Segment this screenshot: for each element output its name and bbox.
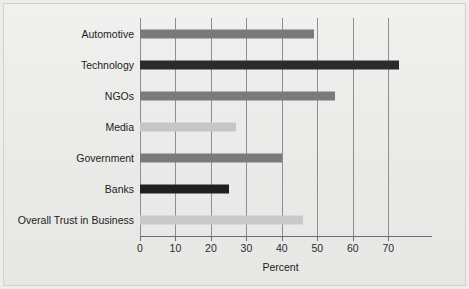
bar [140,91,335,100]
bar-row: Technology [140,49,406,80]
x-axis-tick-label: 60 [347,242,359,254]
y-axis-tick-label: Banks [105,183,134,195]
y-axis-tick-label: NGOs [105,90,134,102]
x-axis-tick [175,237,176,241]
bar-row: Banks [140,174,406,205]
chart-figure: AutomotiveTechnologyNGOsMediaGovernmentB… [0,0,469,289]
x-axis-tick-label: 40 [276,242,288,254]
y-axis-tick-label: Technology [81,59,134,71]
bar [140,216,303,225]
x-axis-tick-label: 70 [382,242,394,254]
x-axis-tick-label: 0 [137,242,143,254]
x-axis-tick [211,237,212,241]
bar [140,122,236,131]
x-axis-tick-label: 30 [241,242,253,254]
bar [140,60,399,69]
x-axis-tick [317,237,318,241]
x-axis-tick [353,237,354,241]
y-axis-tick-label: Government [76,152,134,164]
y-axis-tick-label: Media [105,121,134,133]
x-axis-title: Percent [0,261,469,273]
bar [140,154,282,163]
bar-row: Government [140,143,406,174]
bar-row: NGOs [140,80,406,111]
y-axis-tick-label: Automotive [81,28,134,40]
y-axis-tick-label: Overall Trust in Business [18,214,134,226]
x-axis-title-text: Percent [262,261,298,273]
bar [140,29,314,38]
bar-row: Media [140,111,406,142]
bar-row: Overall Trust in Business [140,205,406,236]
x-axis-tick-label: 20 [205,242,217,254]
bar [140,185,229,194]
x-axis-tick-label: 50 [311,242,323,254]
x-axis-tick [282,237,283,241]
x-axis-tick [140,237,141,241]
bar-row: Automotive [140,18,406,49]
x-axis-tick [388,237,389,241]
plot-area: AutomotiveTechnologyNGOsMediaGovernmentB… [140,18,406,236]
x-axis-tick-label: 10 [170,242,182,254]
x-axis-tick [246,237,247,241]
